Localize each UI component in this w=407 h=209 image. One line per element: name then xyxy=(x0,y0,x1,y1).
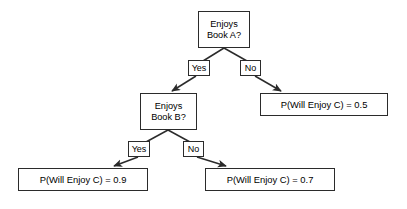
edge-label-second-no-text: No xyxy=(188,144,200,154)
edge-yes-to-second xyxy=(172,76,196,91)
edge-no-to-leaf-a xyxy=(255,76,281,91)
node-outcome-no-book-a: P(Will Enjoy C) = 0.5 xyxy=(260,93,388,116)
node-enjoys-book-b-line1: Enjoys xyxy=(155,101,183,112)
edge-no-to-leaf-b7 xyxy=(197,157,226,166)
node-enjoys-book-a-line1: Enjoys xyxy=(210,19,238,30)
node-outcome-yes-book-b-text: P(Will Enjoy C) = 0.9 xyxy=(40,174,127,185)
edge-label-root-no-text: No xyxy=(245,63,257,73)
edge-yes-to-leaf-b9 xyxy=(114,157,138,166)
edge-label-root-yes: Yes xyxy=(188,60,210,76)
node-outcome-no-book-b-text: P(Will Enjoy C) = 0.7 xyxy=(227,174,314,185)
node-enjoys-book-a-line2: Book A? xyxy=(207,30,241,41)
node-outcome-no-book-b: P(Will Enjoy C) = 0.7 xyxy=(205,168,335,191)
edge-label-second-yes: Yes xyxy=(128,141,150,157)
node-enjoys-book-b-line2: Book B? xyxy=(151,112,186,123)
edge-label-root-no: No xyxy=(240,60,261,76)
decision-tree-diagram: Enjoys Book A? Yes No Enjoys Book B? P(W… xyxy=(0,0,407,209)
edge-label-root-yes-text: Yes xyxy=(192,63,207,73)
node-enjoys-book-a: Enjoys Book A? xyxy=(198,11,250,48)
edge-label-second-yes-text: Yes xyxy=(132,144,147,154)
node-enjoys-book-b: Enjoys Book B? xyxy=(140,93,197,130)
node-outcome-no-book-a-text: P(Will Enjoy C) = 0.5 xyxy=(281,99,368,110)
edge-label-second-no: No xyxy=(183,141,204,157)
node-outcome-yes-book-b: P(Will Enjoy C) = 0.9 xyxy=(18,168,148,191)
